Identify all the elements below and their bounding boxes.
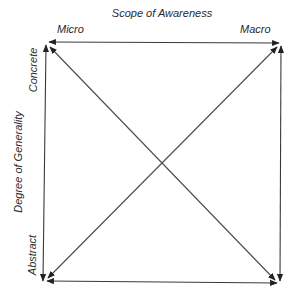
micro-label: Micro (57, 23, 84, 35)
macro-label: Macro (240, 23, 271, 35)
diagonal-tl-br-arrow (50, 47, 275, 280)
abstract-label: Abstract (26, 234, 38, 276)
concrete-abstract-arrow (43, 45, 46, 281)
top-right-bottom-right-arrow (280, 46, 281, 281)
diagonal-bl-tr-arrow (48, 47, 277, 278)
bottom-left-bottom-right-arrow (47, 281, 277, 283)
generality-awareness-diagram: Scope of Awareness Degree of Generality … (0, 0, 295, 298)
scope-of-awareness-label: Scope of Awareness (112, 7, 213, 19)
degree-of-generality-label: Degree of Generality (12, 110, 24, 213)
concrete-label: Concrete (27, 48, 39, 93)
micro-macro-arrow (49, 42, 279, 43)
